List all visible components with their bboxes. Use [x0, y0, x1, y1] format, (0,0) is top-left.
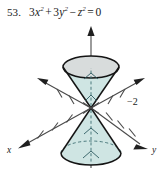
- problem-statement: 53. 3x2+3y2−z2=0: [7, 6, 163, 22]
- x-axis-arrowhead-icon: [18, 140, 31, 149]
- y-axis-label: y: [151, 145, 157, 155]
- figure-page: 53. 3x2+3y2−z2=0 z x: [0, 0, 166, 182]
- equation: 3x2+3y2−z2=0: [29, 6, 101, 18]
- cone-diagram-svg: z x y −2: [0, 22, 166, 182]
- z-axis-label: z: [87, 22, 92, 23]
- equation-minus-operator: −: [68, 6, 78, 18]
- x-axis-label: x: [6, 145, 12, 155]
- y-axis-arrowhead-icon: [133, 144, 148, 149]
- z-axis-arrowhead-icon: [87, 26, 94, 36]
- equation-right-hand-side: 0: [95, 6, 101, 18]
- lower-cone: [61, 108, 121, 165]
- equation-equals-sign: =: [86, 6, 96, 18]
- problem-number: 53.: [7, 6, 21, 18]
- y-axis-tick: [118, 121, 125, 129]
- cone-diagram: z x y −2: [0, 22, 166, 182]
- equation-plus-operator: +: [44, 6, 54, 18]
- y-axis-tick: [129, 129, 136, 137]
- y-axis-value-label: −2: [127, 96, 138, 107]
